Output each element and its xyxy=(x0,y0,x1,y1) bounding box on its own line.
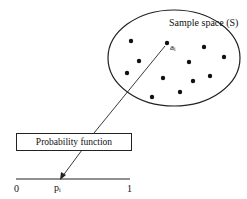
sample-point xyxy=(150,95,154,99)
sample-point xyxy=(202,45,206,49)
axis-min-label: 0 xyxy=(14,183,19,194)
sample-point xyxy=(125,71,129,75)
sample-point xyxy=(187,60,191,64)
sample-points xyxy=(125,39,226,99)
mapping-arrow-line xyxy=(62,150,82,177)
sample-point xyxy=(191,79,195,83)
diagram-canvas xyxy=(0,0,247,199)
sample-point xyxy=(161,76,165,80)
probability-function-box: Probability function xyxy=(16,133,132,151)
sample-point xyxy=(137,59,141,63)
sample-point xyxy=(165,41,169,45)
sample-point xyxy=(208,74,212,78)
sample-space-label: Sample space (S) xyxy=(169,17,238,28)
probability-function-label: Probability function xyxy=(36,137,112,147)
axis-max-label: 1 xyxy=(127,183,132,194)
sample-point xyxy=(222,55,226,59)
sample-point xyxy=(178,90,182,94)
sample-point xyxy=(129,39,133,43)
element-label: aᵢ xyxy=(170,42,175,52)
mapping-line xyxy=(94,46,165,133)
axis-point-label: pᵢ xyxy=(54,182,61,193)
